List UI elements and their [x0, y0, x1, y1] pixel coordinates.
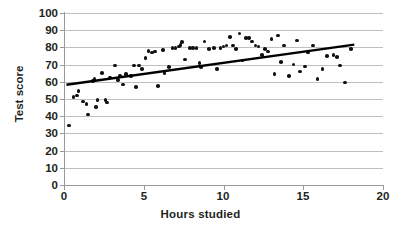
- data-point: [121, 83, 125, 87]
- data-point: [292, 63, 296, 67]
- data-point: [129, 74, 133, 78]
- data-point: [325, 54, 329, 58]
- x-tick-label-0: 0: [44, 190, 84, 202]
- y-axis-title: Test score: [13, 39, 25, 149]
- data-point: [132, 64, 136, 68]
- scatter-chart: 100 90 80 70 60 50 40 30 20 10 0 0 5 10 …: [0, 0, 401, 236]
- data-point: [298, 70, 302, 74]
- data-point: [238, 32, 242, 36]
- data-point: [167, 65, 171, 69]
- data-point: [321, 67, 325, 71]
- y-tick-label-10: 10: [18, 163, 58, 174]
- data-point: [144, 56, 148, 60]
- data-point: [270, 37, 274, 41]
- data-point: [134, 85, 138, 89]
- data-point: [207, 47, 211, 51]
- data-point: [273, 72, 277, 76]
- data-point: [199, 65, 203, 69]
- data-point: [93, 77, 97, 81]
- data-point: [279, 60, 283, 64]
- data-point: [180, 40, 184, 44]
- data-point: [311, 44, 315, 48]
- data-point: [343, 81, 347, 85]
- data-point: [118, 74, 122, 78]
- data-point: [161, 48, 165, 52]
- data-point: [316, 77, 320, 81]
- data-point: [241, 59, 245, 63]
- data-point: [338, 64, 342, 68]
- data-point: [276, 34, 280, 38]
- data-point: [183, 58, 187, 62]
- x-tick-label-20: 20: [363, 190, 401, 202]
- data-point: [225, 44, 229, 48]
- x-tick-label-5: 5: [124, 190, 164, 202]
- data-point: [287, 74, 291, 78]
- data-point: [260, 53, 264, 57]
- y-tick-label-90: 90: [18, 25, 58, 36]
- data-point: [140, 67, 144, 71]
- data-point: [163, 71, 167, 75]
- data-point: [203, 40, 207, 44]
- data-point: [303, 65, 307, 69]
- data-point: [67, 124, 71, 128]
- y-tick-label-100: 100: [18, 8, 58, 19]
- x-tick-label-10: 10: [203, 190, 243, 202]
- data-point: [195, 46, 199, 50]
- data-point: [116, 78, 120, 82]
- data-point: [75, 94, 79, 98]
- data-point: [100, 71, 104, 75]
- data-point: [257, 45, 261, 49]
- data-point: [266, 50, 270, 54]
- data-point: [234, 47, 238, 51]
- data-point: [215, 67, 219, 71]
- data-point: [282, 44, 286, 48]
- data-point: [94, 105, 98, 109]
- data-point: [86, 113, 90, 117]
- data-point: [113, 64, 117, 68]
- data-point: [77, 89, 81, 93]
- x-axis-title: Hours studied: [0, 208, 401, 220]
- data-point: [295, 39, 299, 43]
- plot-area: [64, 13, 383, 185]
- data-point: [349, 47, 353, 51]
- data-point: [96, 98, 100, 102]
- data-point: [105, 101, 109, 105]
- data-point: [124, 72, 128, 76]
- data-point: [198, 61, 202, 65]
- data-point: [156, 84, 160, 88]
- data-point: [153, 50, 157, 54]
- data-point: [85, 102, 89, 106]
- data-point: [108, 76, 112, 80]
- data-point: [306, 51, 310, 55]
- data-point: [250, 40, 254, 44]
- data-point: [228, 35, 232, 39]
- data-point: [335, 55, 339, 59]
- x-tick-label-15: 15: [283, 190, 323, 202]
- data-point: [212, 46, 216, 50]
